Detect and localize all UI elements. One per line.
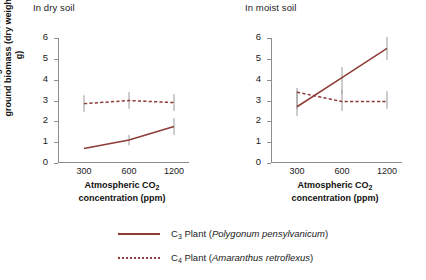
panel-title-moist: In moist soil [245,2,296,13]
y-tick-label-5: 5 [43,52,48,63]
x-axis-label-line1: Atmospheric CO [85,180,156,190]
y-tick-label-1: 1 [256,135,261,146]
y-tick-label-3: 3 [43,94,48,105]
figure-root: In dry soil Average total above- ground … [0,0,426,280]
x-axis-label-line2: concentration (ppm) [292,193,379,203]
panel-moist-soil: In moist soil 6543210 3006001200 Atmosph… [213,0,426,215]
x-axis-label-line2: concentration (ppm) [79,193,166,203]
x-tick-label-600: 600 [334,166,349,176]
x-axis-label-sub: 2 [369,184,373,191]
legend-c4-prefix: C [171,252,178,263]
panel-title-dry: In dry soil [33,2,75,13]
legend-label-c4: C4 Plant (Amaranthus retroflexus) [171,252,313,264]
y-tick-0: 0 [54,163,58,164]
plot-area-dry: 6543210 3006001200 [58,38,188,163]
legend-c3-species: Polygonum pensylvanicum [212,228,325,239]
legend-c3-text: Plant ( [182,228,212,239]
y-tick-label-2: 2 [43,114,48,125]
legend-swatch-dashed-icon [118,257,160,259]
y-tick-label-0: 0 [256,156,261,167]
x-axis-label-moist: Atmospheric CO2 concentration (ppm) [255,180,415,204]
y-axis-label: Average total above- ground biomass (dry… [0,0,26,120]
legend-c4-species: Amaranthus retroflexus [212,252,310,263]
y-tick-label-2: 2 [256,114,261,125]
legend-item-c4: C4 Plant (Amaranthus retroflexus) [118,250,313,266]
y-axis-label-line1: Average total above- [0,11,2,99]
y-tick-label-6: 6 [43,31,48,42]
y-tick-label-4: 4 [43,73,48,84]
chart-legend: C3 Plant (Polygonum pensylvanicum) C4 Pl… [0,218,426,280]
y-tick-label-3: 3 [256,94,261,105]
x-axis-label-sub: 2 [156,184,160,191]
x-tick-label-1200: 1200 [377,166,397,176]
series-svg-dry [58,38,188,163]
x-tick-label-1200: 1200 [164,166,184,176]
legend-c4-suffix: ) [310,252,313,263]
x-tick-label-300: 300 [289,166,304,176]
x-tick-label-600: 600 [121,166,136,176]
y-tick-label-5: 5 [256,52,261,63]
legend-item-c3: C3 Plant (Polygonum pensylvanicum) [118,226,328,242]
legend-label-c3: C3 Plant (Polygonum pensylvanicum) [171,228,328,240]
plot-area-moist: 6543210 3006001200 [271,38,401,163]
y-tick-label-1: 1 [43,135,48,146]
series-svg-moist [271,38,401,163]
legend-c3-suffix: ) [325,228,328,239]
legend-c3-prefix: C [171,228,178,239]
y-tick-label-4: 4 [256,73,261,84]
panel-dry-soil: In dry soil Average total above- ground … [0,0,213,215]
x-axis-label-dry: Atmospheric CO2 concentration (ppm) [42,180,202,204]
y-tick-label-0: 0 [43,156,48,167]
y-tick-label-6: 6 [256,31,261,42]
panels-container: In dry soil Average total above- ground … [0,0,426,215]
x-tick-label-300: 300 [76,166,91,176]
legend-swatch-solid-icon [118,233,160,235]
y-axis-label-line2: ground biomass (dry weight, g) [3,0,25,120]
y-tick-0: 0 [267,163,271,164]
x-axis-label-line1: Atmospheric CO [298,180,369,190]
legend-c4-text: Plant ( [182,252,212,263]
